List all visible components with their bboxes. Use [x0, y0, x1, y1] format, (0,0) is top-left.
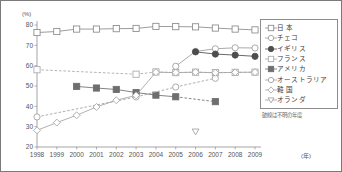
legend-item-2[interactable]: チェコ — [265, 33, 334, 43]
square-open-icon — [265, 23, 277, 33]
legend-item-3[interactable]: イギリス — [265, 44, 334, 54]
legend-item-5[interactable]: アメリカ — [265, 64, 334, 74]
circle-open-icon — [265, 33, 277, 43]
legend-item-label: イギリス — [277, 44, 306, 54]
svg-text:70: 70 — [26, 42, 34, 49]
legend-item-8[interactable]: オランダ — [265, 95, 334, 105]
square-filled-icon — [265, 64, 277, 74]
chart-legend: 日 本チェコイギリスフランスアメリカオーストラリア韓 国オランダ — [260, 19, 338, 109]
svg-text:2009: 2009 — [248, 151, 263, 158]
svg-text:2007: 2007 — [208, 151, 223, 158]
svg-text:80: 80 — [26, 21, 34, 28]
svg-text:30: 30 — [26, 123, 34, 130]
svg-text:50: 50 — [26, 82, 34, 89]
legend-note: 破線は不明の年度 — [262, 111, 302, 119]
legend-item-label: フランス — [277, 54, 306, 64]
legend-item-7[interactable]: 韓 国 — [265, 85, 334, 95]
legend-item-label: アメリカ — [277, 64, 306, 74]
svg-text:2004: 2004 — [149, 151, 164, 158]
svg-text:60: 60 — [26, 62, 34, 69]
svg-text:1999: 1999 — [50, 151, 65, 158]
legend-item-label: オランダ — [277, 95, 306, 105]
legend-item-6[interactable]: オーストラリア — [265, 74, 334, 84]
legend-item-1[interactable]: 日 本 — [265, 23, 334, 33]
svg-text:2003: 2003 — [129, 151, 144, 158]
svg-text:2008: 2008 — [228, 151, 243, 158]
legend-item-label: オーストラリア — [277, 75, 327, 85]
svg-text:2002: 2002 — [109, 151, 124, 158]
legend-item-label: 日 本 — [277, 23, 293, 33]
svg-text:40: 40 — [26, 103, 34, 110]
legend-item-label: 韓 国 — [277, 85, 293, 95]
svg-text:2005: 2005 — [168, 151, 183, 158]
svg-text:2006: 2006 — [188, 151, 203, 158]
triangle-down-open-icon — [265, 95, 277, 105]
svg-text:1998: 1998 — [30, 151, 45, 158]
circle-filled-icon — [265, 44, 277, 54]
circle-open-icon — [265, 75, 277, 85]
svg-text:2001: 2001 — [89, 151, 104, 158]
chart-frame: (%) (年) 20304050607080199819992000200120… — [0, 0, 342, 172]
legend-item-4[interactable]: フランス — [265, 54, 334, 64]
legend-item-label: チェコ — [277, 33, 299, 43]
square-open-icon — [265, 54, 277, 64]
svg-text:2000: 2000 — [69, 151, 84, 158]
svg-text:20: 20 — [26, 143, 34, 150]
diamond-open-icon — [265, 85, 277, 95]
